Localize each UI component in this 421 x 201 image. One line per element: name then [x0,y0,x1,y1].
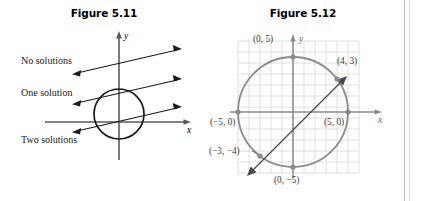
point-label-0-5: (0, 5) [253,34,273,45]
figures-page: Figure 5.11 y x [0,0,421,201]
point-neg5-0 [235,109,240,114]
point-label-4-3: (4, 3) [337,56,357,67]
x-axis-label-left: x [186,125,192,135]
point-label-neg3-neg4: (−3, −4) [209,146,240,157]
line-two-solutions [72,103,182,135]
point-5-0 [345,109,350,114]
point-4-3 [334,76,339,81]
point-label-neg5-0: (−5, 0) [210,117,235,128]
figure-5-12-panel: Figure 5.12 [208,0,398,201]
point-label-0-neg5: (0, −5) [274,175,299,186]
x-axis-label-right: x [377,115,383,125]
y-axis-label-right: y [298,34,304,44]
y-axis-label-left: y [123,31,129,41]
point-neg3-neg4 [257,153,262,158]
point-0-neg5 [290,164,295,169]
point-0-5 [290,54,295,59]
figure-5-11-graphic: y x No solutions On [0,0,208,201]
annotation-two-solutions: Two solutions [21,134,77,145]
point-label-5-0: (5, 0) [324,117,344,128]
figure-5-11-panel: Figure 5.11 y x [0,0,208,201]
page-rule-inner [404,0,405,201]
annotation-one-solution: One solution [21,87,72,98]
figure-5-12-graphic: y x (0, 5) (4, 3) (5, 0) [208,0,398,201]
page-rule-outer [409,0,410,201]
y-axis-left [116,31,122,160]
annotation-no-solutions: No solutions [21,55,72,66]
line-no-solutions [72,45,182,77]
